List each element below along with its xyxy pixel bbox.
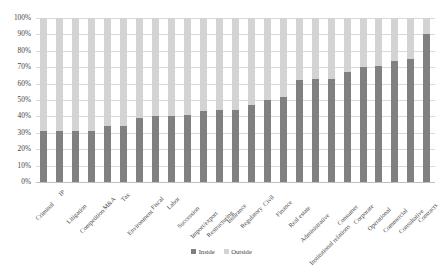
bar-slot	[68, 18, 84, 182]
bar-segment-outside	[375, 18, 382, 66]
bar-segment-outside	[168, 18, 175, 116]
x-axis-tick-label: Criminal	[35, 201, 56, 222]
bar-segment-inside	[136, 118, 143, 182]
stacked-bar[interactable]	[200, 18, 207, 182]
legend-item[interactable]: Outside	[224, 248, 252, 255]
bar-segment-outside	[216, 18, 223, 110]
y-axis-tick-label: 100%	[14, 14, 31, 21]
bar-segment-outside	[232, 18, 239, 110]
chart-legend: InsideOutside	[0, 248, 443, 255]
bar-segment-inside	[280, 97, 287, 182]
bar-slot	[196, 18, 212, 182]
plot-area-wrapper	[36, 18, 435, 182]
bar-slot	[355, 18, 371, 182]
bar-slot	[84, 18, 100, 182]
bar-series-group	[36, 18, 435, 182]
stacked-bar[interactable]	[56, 18, 63, 182]
stacked-bar[interactable]	[344, 18, 351, 182]
bar-segment-outside	[200, 18, 207, 111]
stacked-bar[interactable]	[312, 18, 319, 182]
stacked-bar[interactable]	[407, 18, 414, 182]
bar-slot	[132, 18, 148, 182]
bar-segment-outside	[264, 18, 271, 100]
bar-segment-inside	[88, 131, 95, 182]
bar-segment-inside	[232, 110, 239, 182]
bar-slot	[339, 18, 355, 182]
bar-slot	[36, 18, 52, 182]
bar-segment-inside	[72, 131, 79, 182]
bar-slot	[419, 18, 435, 182]
bar-segment-inside	[296, 80, 303, 182]
stacked-bar[interactable]	[423, 18, 430, 182]
y-axis-tick-label: 50%	[18, 96, 31, 103]
x-axis-tick-label: Environment	[126, 209, 154, 237]
bar-slot	[259, 18, 275, 182]
stacked-bar[interactable]	[296, 18, 303, 182]
stacked-bar[interactable]	[248, 18, 255, 182]
x-axis: CriminalIPLitigationCompetitionM&ATaxEnv…	[36, 183, 435, 245]
bar-segment-outside	[152, 18, 159, 116]
bar-segment-outside	[423, 18, 430, 34]
stacked-bar[interactable]	[136, 18, 143, 182]
bar-segment-outside	[248, 18, 255, 105]
bar-segment-inside	[40, 131, 47, 182]
bar-slot	[116, 18, 132, 182]
bar-segment-outside	[72, 18, 79, 131]
bar-segment-inside	[391, 61, 398, 182]
x-axis-tick-label: Civil	[262, 194, 276, 208]
y-axis-tick-label: 80%	[18, 47, 31, 54]
y-axis-tick-label: 40%	[18, 113, 31, 120]
y-axis-tick-label: 70%	[18, 64, 31, 71]
bar-slot	[148, 18, 164, 182]
x-axis-tick-label: Fiscal	[149, 196, 165, 212]
bar-segment-inside	[312, 79, 319, 182]
legend-swatch-icon	[224, 249, 229, 254]
x-axis-tick-label: IP	[58, 189, 67, 198]
bar-segment-inside	[360, 67, 367, 182]
bar-slot	[100, 18, 116, 182]
bar-segment-outside	[40, 18, 47, 131]
bar-segment-inside	[200, 111, 207, 182]
stacked-bar[interactable]	[360, 18, 367, 182]
bar-slot	[243, 18, 259, 182]
bar-segment-inside	[248, 105, 255, 182]
stacked-bar[interactable]	[104, 18, 111, 182]
stacked-bar[interactable]	[88, 18, 95, 182]
legend-item[interactable]: Inside	[191, 248, 215, 255]
legend-swatch-icon	[191, 249, 196, 254]
stacked-bar[interactable]	[280, 18, 287, 182]
bar-segment-inside	[375, 66, 382, 182]
bar-segment-outside	[391, 18, 398, 61]
stacked-bar[interactable]	[328, 18, 335, 182]
y-axis: 100%90%80%70%60%50%40%30%20%10%0%	[0, 18, 34, 182]
stacked-bar[interactable]	[40, 18, 47, 182]
stacked-bar[interactable]	[264, 18, 271, 182]
bar-segment-inside	[344, 72, 351, 182]
x-axis-tick-label: Tax	[120, 192, 132, 204]
y-axis-tick-label: 30%	[18, 129, 31, 136]
bar-segment-outside	[344, 18, 351, 72]
legend-label: Inside	[199, 248, 215, 255]
y-axis-tick-label: 60%	[18, 80, 31, 87]
plot-area	[36, 18, 435, 182]
bar-segment-outside	[184, 18, 191, 115]
stacked-bar[interactable]	[168, 18, 175, 182]
bar-segment-inside	[152, 116, 159, 182]
bar-segment-outside	[407, 18, 414, 59]
bar-segment-outside	[296, 18, 303, 80]
stacked-bar[interactable]	[216, 18, 223, 182]
bar-slot	[291, 18, 307, 182]
stacked-bar[interactable]	[72, 18, 79, 182]
bar-slot	[211, 18, 227, 182]
bar-segment-inside	[168, 116, 175, 182]
stacked-bar[interactable]	[391, 18, 398, 182]
stacked-bar[interactable]	[184, 18, 191, 182]
y-axis-tick-label: 20%	[18, 146, 31, 153]
stacked-bar[interactable]	[232, 18, 239, 182]
stacked-bar[interactable]	[152, 18, 159, 182]
bar-segment-inside	[184, 115, 191, 182]
bar-segment-outside	[56, 18, 63, 131]
stacked-bar[interactable]	[120, 18, 127, 182]
stacked-bar[interactable]	[375, 18, 382, 182]
